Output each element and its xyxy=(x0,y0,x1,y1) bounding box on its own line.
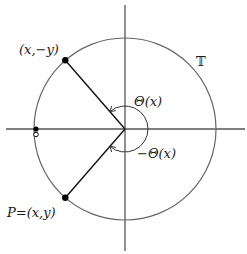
unit-circle-diagram: 𝕋 (x,−y) P=(x,y) Θ(x) −Θ(x) xyxy=(0,0,247,254)
negative-angle-label: −Θ(x) xyxy=(137,146,176,161)
ray-to-upper-point xyxy=(65,60,125,129)
positive-angle-label: Θ(x) xyxy=(134,94,162,109)
point-negative-one-open xyxy=(34,132,39,137)
point-upper xyxy=(62,57,68,63)
point-lower xyxy=(62,194,68,200)
lower-point-label: P=(x,y) xyxy=(6,205,56,220)
circle-label: 𝕋 xyxy=(196,54,206,69)
ray-to-lower-point xyxy=(65,129,125,198)
upper-point-label: (x,−y) xyxy=(19,42,59,57)
point-negative-one-filled xyxy=(33,126,38,131)
